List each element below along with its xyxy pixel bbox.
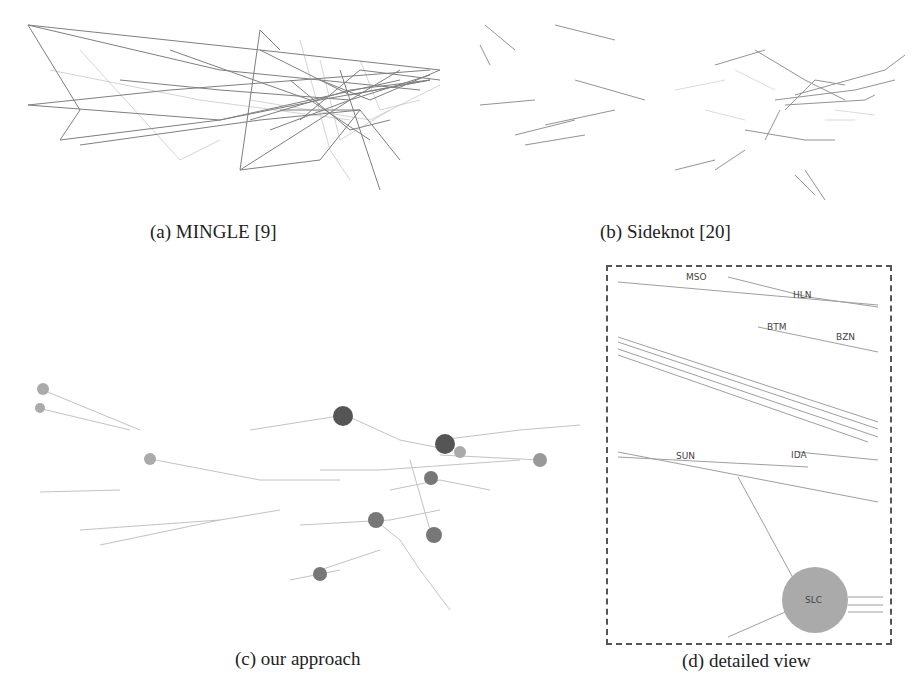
label-slc: SLC — [805, 595, 822, 605]
mingle-edge-bundling-graph — [20, 10, 450, 210]
panel-our-approach — [20, 370, 590, 615]
detailed-view-graph: MSO HLN BTM BZN SUN IDA SLC — [608, 267, 890, 643]
caption-detailed-view: (d) detailed view — [682, 650, 811, 672]
label-bzn: BZN — [836, 332, 855, 342]
label-sun: SUN — [676, 451, 695, 461]
caption-our-approach: (c) our approach — [235, 648, 361, 670]
label-btm: BTM — [767, 322, 786, 332]
label-mso: MSO — [686, 272, 707, 282]
our-approach-graph — [20, 370, 590, 615]
label-ida: IDA — [791, 450, 807, 460]
panel-sideknot — [475, 10, 915, 210]
label-hln: HLN — [793, 290, 812, 300]
caption-sideknot: (b) Sideknot [20] — [600, 221, 731, 243]
panel-detailed-view: MSO HLN BTM BZN SUN IDA SLC — [608, 267, 890, 643]
caption-mingle: (a) MINGLE [9] — [150, 221, 277, 243]
sideknot-edge-bundling-graph — [475, 10, 915, 210]
panel-mingle — [20, 10, 450, 210]
